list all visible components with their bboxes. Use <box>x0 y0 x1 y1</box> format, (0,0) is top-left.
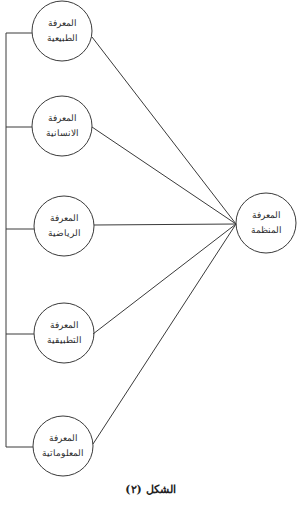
node-label-line2: المنظمة <box>251 223 282 238</box>
node-label-line1: المعرفة <box>48 16 77 31</box>
connector-informatics <box>93 224 236 444</box>
node-human-knowledge: المعرفة الانسانية <box>32 96 92 156</box>
node-applied-knowledge: المعرفة التطبيقية <box>34 303 94 363</box>
node-label-line2: التطبيقية <box>47 333 82 348</box>
node-informatics-knowledge: المعرفة المعلوماتية <box>33 416 93 476</box>
node-label-line2: الانسانية <box>46 126 79 141</box>
node-label-line1: المعرفة <box>48 111 77 126</box>
connector-applied <box>93 224 236 334</box>
node-label-line1: المعرفة <box>50 318 79 333</box>
node-natural-knowledge: المعرفة الطبيعية <box>32 1 92 61</box>
node-label-line1: المعرفة <box>50 211 79 226</box>
node-math-knowledge: المعرفة الرياضية <box>34 196 94 256</box>
node-label-line1: المعرفة <box>252 208 281 223</box>
node-label-line2: الرياضية <box>48 226 81 241</box>
node-organized-knowledge: المعرفة المنظمة <box>236 193 296 253</box>
connector-math <box>94 224 236 225</box>
figure-caption: الشكل (٢) <box>0 483 301 496</box>
connector-human <box>92 127 236 224</box>
connector-natural <box>92 37 236 224</box>
node-label-line1: المعرفة <box>49 431 78 446</box>
node-label-line2: الطبيعية <box>47 31 78 46</box>
node-label-line2: المعلوماتية <box>42 446 84 461</box>
